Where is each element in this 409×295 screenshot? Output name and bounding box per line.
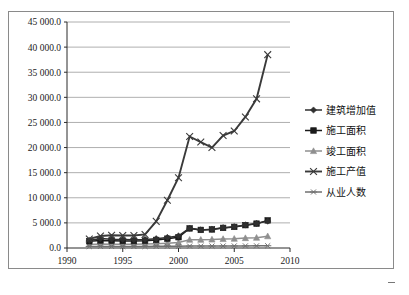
y-axis-tick-label: 5 000.0 xyxy=(33,218,62,228)
line-chart: 0.05 000.010 000.015 000.020 000.025 000… xyxy=(0,0,409,295)
corner-dash-mark xyxy=(388,282,395,283)
y-axis-tick-label: 35 000.0 xyxy=(28,68,62,78)
series-line xyxy=(89,55,267,239)
legend-item-5[interactable]: 从业人数 xyxy=(305,186,366,198)
legend-item-4[interactable]: 施工产值 xyxy=(305,165,366,177)
y-axis-tick-label: 0.0 xyxy=(49,243,61,253)
marker-diamond xyxy=(310,107,316,113)
legend-item-1[interactable]: 建筑增加值 xyxy=(305,104,376,116)
x-axis-tick-label: 1990 xyxy=(58,256,77,266)
legend-item-2[interactable]: 施工面积 xyxy=(305,124,366,136)
x-axis-tick-label: 2000 xyxy=(169,256,188,266)
y-axis-tick-label: 20 000.0 xyxy=(28,143,62,153)
legend-label: 从业人数 xyxy=(326,186,366,198)
legend-label: 施工面积 xyxy=(326,124,366,136)
legend-label: 施工产值 xyxy=(326,165,366,177)
x-axis-tick-label: 2010 xyxy=(281,256,300,266)
y-axis-tick-label: 25 000.0 xyxy=(28,118,62,128)
x-axis-tick-label: 2005 xyxy=(225,256,244,266)
legend-label: 建筑增加值 xyxy=(326,104,376,116)
x-axis-tick-label: 1995 xyxy=(113,256,132,266)
y-axis-tick-label: 40 000.0 xyxy=(28,43,62,53)
y-axis-tick-label: 45 000.0 xyxy=(28,17,62,27)
chart-container: 0.05 000.010 000.015 000.020 000.025 000… xyxy=(0,0,409,295)
legend-item-3[interactable]: 竣工面积 xyxy=(305,145,366,157)
y-axis-tick-label: 15 000.0 xyxy=(28,168,62,178)
legend-label: 竣工面积 xyxy=(326,145,366,157)
y-axis-tick-label: 30 000.0 xyxy=(28,93,62,103)
marker-square xyxy=(311,128,317,134)
y-axis-tick-label: 10 000.0 xyxy=(28,193,62,203)
series-4 xyxy=(86,51,271,242)
